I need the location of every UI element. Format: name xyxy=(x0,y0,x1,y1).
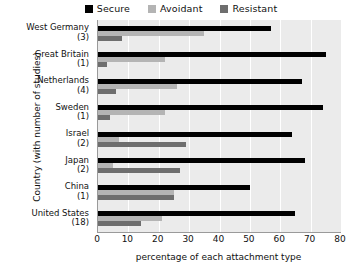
x-tick-label: 30 xyxy=(182,234,193,244)
bar-group-israel xyxy=(98,126,341,153)
x-tick-label: 10 xyxy=(122,234,133,244)
legend-entry-avoidant[interactable]: Avoidant xyxy=(148,4,202,14)
bar-group-sweden xyxy=(98,100,341,127)
y-tick-label-united-states: United States(18) xyxy=(31,209,89,228)
gridline xyxy=(341,20,342,232)
x-tick-label: 70 xyxy=(304,234,315,244)
y-tick-label-china: China(1) xyxy=(65,182,89,201)
bar-resistant[interactable] xyxy=(98,142,186,147)
bar-resistant[interactable] xyxy=(98,168,180,173)
legend-label: Resistant xyxy=(232,4,277,14)
bar-avoidant[interactable] xyxy=(98,57,165,62)
bar-groups xyxy=(98,20,341,232)
y-tick-label-israel: Israel(2) xyxy=(66,129,89,148)
bar-resistant[interactable] xyxy=(98,62,107,67)
y-tick-label-great-britain: Great Britain(1) xyxy=(35,50,89,69)
country-name: Japan xyxy=(65,155,89,165)
bar-secure[interactable] xyxy=(98,132,292,137)
y-tick-label-netherlands: Netherlands(4) xyxy=(37,76,89,95)
study-count: (1) xyxy=(55,112,89,122)
plot-area xyxy=(97,20,341,232)
study-count: (18) xyxy=(31,218,89,228)
square-swatch-icon xyxy=(85,5,93,13)
country-name: Sweden xyxy=(55,102,89,112)
country-name: West Germany xyxy=(26,22,89,32)
square-swatch-icon xyxy=(220,5,228,13)
bar-chart-figure: SecureAvoidantResistant Country (with nu… xyxy=(0,0,362,274)
bar-resistant[interactable] xyxy=(98,89,116,94)
country-name: United States xyxy=(31,208,89,218)
country-name: China xyxy=(65,181,89,191)
bar-resistant[interactable] xyxy=(98,36,122,41)
x-tick-label: 20 xyxy=(152,234,163,244)
bar-resistant[interactable] xyxy=(98,195,174,200)
bar-secure[interactable] xyxy=(98,158,305,163)
square-swatch-icon xyxy=(148,5,156,13)
study-count: (1) xyxy=(35,59,89,69)
country-name: Great Britain xyxy=(35,49,89,59)
country-name: Netherlands xyxy=(37,75,89,85)
y-axis-tick-labels: West Germany(3)Great Britain(1)Netherlan… xyxy=(0,20,93,232)
study-count: (2) xyxy=(65,165,89,175)
bar-group-netherlands xyxy=(98,73,341,100)
study-count: (4) xyxy=(37,86,89,96)
study-count: (3) xyxy=(26,33,89,43)
chart-legend: SecureAvoidantResistant xyxy=(0,2,362,16)
legend-label: Secure xyxy=(97,4,130,14)
x-axis-line xyxy=(97,232,341,233)
country-name: Israel xyxy=(66,128,89,138)
bar-group-china xyxy=(98,179,341,206)
bar-resistant[interactable] xyxy=(98,115,110,120)
legend-entry-secure[interactable]: Secure xyxy=(85,4,130,14)
bar-group-great-britain xyxy=(98,47,341,74)
x-tick-label: 40 xyxy=(213,234,224,244)
y-tick-label-west-germany: West Germany(3) xyxy=(26,23,89,42)
x-axis-title: percentage of each attachment type xyxy=(97,252,340,262)
x-tick-label: 80 xyxy=(334,234,345,244)
bar-group-united-states xyxy=(98,206,341,233)
legend-label: Avoidant xyxy=(160,4,202,14)
x-tick-label: 0 xyxy=(94,234,100,244)
x-tick-label: 60 xyxy=(274,234,285,244)
study-count: (2) xyxy=(66,139,89,149)
bar-group-japan xyxy=(98,153,341,180)
bar-group-west-germany xyxy=(98,20,341,47)
study-count: (1) xyxy=(65,192,89,202)
x-axis-tick-labels: 01020304050607080 xyxy=(97,234,340,246)
y-tick-label-japan: Japan(2) xyxy=(65,156,89,175)
legend-entry-resistant[interactable]: Resistant xyxy=(220,4,277,14)
bar-resistant[interactable] xyxy=(98,221,141,226)
y-tick-label-sweden: Sweden(1) xyxy=(55,103,89,122)
x-tick-label: 50 xyxy=(243,234,254,244)
